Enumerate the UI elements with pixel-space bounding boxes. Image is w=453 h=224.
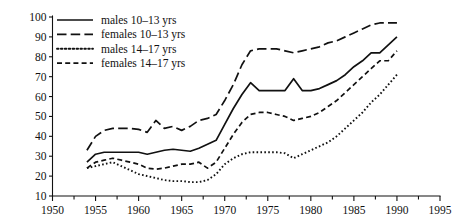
y-axis: 102030405060708090100: [29, 11, 52, 202]
y-tick-label: 30: [35, 150, 47, 162]
x-tick-label: 1970: [213, 204, 236, 216]
y-tick-label: 20: [35, 170, 47, 182]
x-tick-label: 1990: [385, 204, 408, 216]
y-tick-label: 60: [35, 91, 47, 103]
y-tick-label: 40: [35, 130, 47, 142]
x-tick-label: 1985: [342, 204, 365, 216]
legend-label-2: males 14–17 yrs: [101, 43, 177, 56]
y-tick-label: 50: [35, 110, 47, 122]
y-tick-label: 10: [35, 190, 47, 202]
x-tick-label: 1975: [256, 204, 279, 216]
x-tick-label: 1960: [127, 204, 150, 216]
legend-label-1: females 10–13 yrs: [101, 28, 186, 41]
series-line-0: [87, 37, 397, 162]
line-chart: 102030405060708090100 195019551960196519…: [0, 0, 453, 224]
x-tick-label: 1965: [170, 204, 193, 216]
x-tick-label: 1955: [84, 204, 107, 216]
y-tick-label: 90: [35, 31, 47, 43]
chart-plot-area: 102030405060708090100 195019551960196519…: [0, 0, 453, 224]
x-tick-label: 1980: [299, 204, 322, 216]
y-tick-label: 100: [29, 11, 47, 23]
chart-legend: males 10–13 yrsfemales 10–13 yrsmales 14…: [57, 14, 186, 70]
y-tick-label: 80: [35, 51, 47, 63]
legend-label-3: females 14–17 yrs: [101, 57, 186, 70]
x-axis: 1950195519601965197019751980198519901995: [41, 196, 452, 216]
x-tick-label: 1995: [429, 204, 452, 216]
y-tick-label: 70: [35, 71, 47, 83]
x-tick-label: 1950: [41, 204, 64, 216]
legend-label-0: males 10–13 yrs: [101, 14, 177, 27]
